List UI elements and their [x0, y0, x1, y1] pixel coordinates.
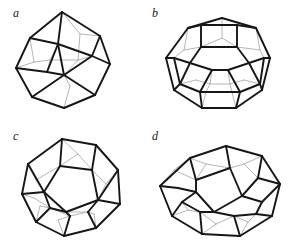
polyhedron-a-wireframe	[0, 0, 145, 125]
polyhedron-panel-d: d	[144, 124, 289, 249]
polyhedron-panel-a: a	[0, 0, 145, 125]
polyhedron-b-visible-edges	[166, 18, 270, 108]
panel-label-d: d	[152, 130, 158, 142]
polyhedron-panel-c: c	[0, 124, 145, 249]
polyhedron-c-wireframe	[0, 124, 145, 249]
panel-label-a: a	[13, 7, 19, 19]
panel-label-b: b	[152, 7, 158, 19]
polyhedron-b-wireframe	[144, 0, 289, 125]
polyhedron-d-hidden-edges	[160, 156, 262, 236]
panel-label-c: c	[13, 130, 18, 142]
polyhedron-d-wireframe	[144, 124, 289, 249]
polyhedron-panel-b: b	[144, 0, 289, 125]
polyhedron-c-visible-edges	[22, 139, 120, 236]
polyhedra-figure: a b c d	[0, 0, 289, 249]
